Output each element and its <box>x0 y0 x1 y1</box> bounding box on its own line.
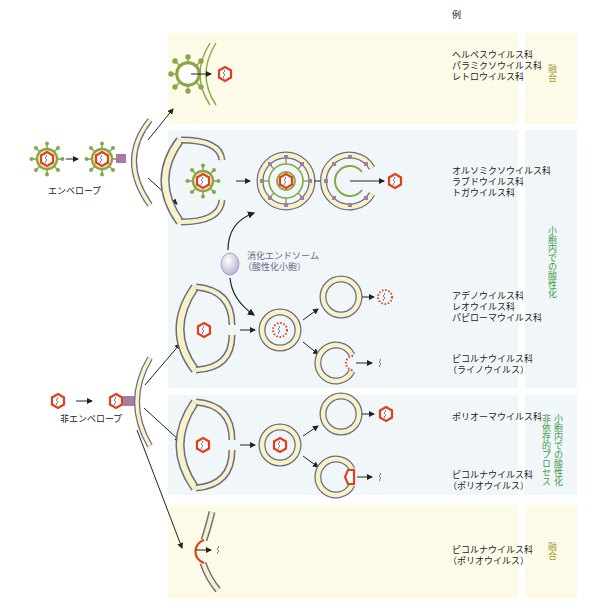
mechanism-fusion-bottom: 融合 <box>546 542 557 560</box>
mechanism-acid-independent-line1: 小胞内での酸性化 <box>552 414 563 486</box>
example-row5-line1: ポリオーマウイルス科 <box>452 412 542 423</box>
virus-entry-diagram <box>0 0 612 616</box>
mechanism-acid-independent-line2: 非依存的プロセス <box>540 414 551 486</box>
released-capsid-icon <box>219 67 231 81</box>
endosome-label-line1: 消化エンドソーム <box>247 251 319 262</box>
non-enveloped-virus-icon <box>52 394 64 408</box>
example-row1-line2: パラミクソウイルス科 <box>452 61 542 72</box>
enveloped-label: エンベロープ <box>48 186 101 197</box>
example-row4-line2: （ライノウイルス） <box>448 365 529 376</box>
example-row3-line2: レオウイルス科 <box>452 302 515 313</box>
example-row4-line1: ピコルナウイルス科 <box>452 354 533 365</box>
enveloped-virus-icon <box>30 142 65 177</box>
example-row6-line1: ピコルナウイルス科 <box>452 470 533 481</box>
enveloped-virus-bound-icon <box>85 142 120 177</box>
example-row2-line3: トガウイルス科 <box>452 188 515 199</box>
endosome-icon <box>221 253 239 275</box>
example-row1-line3: レトロウイルス科 <box>452 72 524 83</box>
example-row3-line3: パピローマウイルス科 <box>452 313 542 324</box>
example-row7-line1: ピコルナウイルス科 <box>452 545 533 556</box>
example-row6-line2: （ポリオウイルス） <box>448 481 529 492</box>
endosome-label-line2: （酸性化小胞） <box>243 262 306 273</box>
mechanism-acidification: 小胞内での酸性化 <box>546 226 557 298</box>
example-row3-line1: アデノウイルス科 <box>452 291 524 302</box>
example-row1-line1: ヘルペスウイルス科 <box>452 50 533 61</box>
non-enveloped-label: 非エンベロープ <box>60 414 122 425</box>
example-row7-line2: （ポリオウイルス） <box>448 556 529 567</box>
example-row2-line1: オルソミクソウイルス科 <box>452 166 551 177</box>
mechanism-fusion-top: 融合 <box>546 64 557 82</box>
non-enveloped-virus-bound-icon <box>110 394 122 408</box>
example-row2-line2: ラブドウイルス科 <box>452 177 524 188</box>
